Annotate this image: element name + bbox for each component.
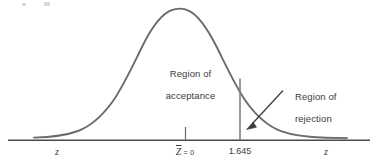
rejection-region-line-2: rejection — [295, 113, 332, 124]
acceptance-region-line-2: acceptance — [166, 90, 216, 101]
tick-label-critical-value: 1.645 — [218, 146, 262, 156]
rejection-region-line-1: Region of — [295, 91, 337, 102]
acceptance-region-label: Region of acceptance — [142, 57, 228, 112]
tick-label-mean: Z = 0 — [160, 146, 210, 157]
axis-label-left-z: z — [45, 146, 69, 157]
normal-distribution-figure: Region of acceptance Region of rejection… — [0, 0, 378, 167]
acceptance-region-line-1: Region of — [170, 68, 212, 79]
rejection-region-label: Region of rejection — [284, 80, 364, 135]
axis-label-right-z: z — [314, 146, 338, 157]
z-bar-equals-zero: = 0 — [181, 148, 194, 157]
